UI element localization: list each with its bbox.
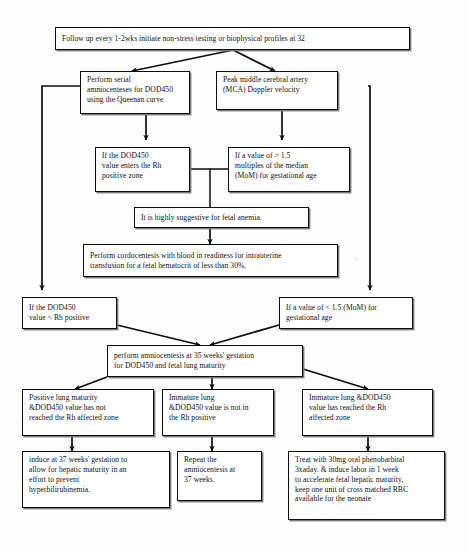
- node-mom-high-line-1: multiples of the median: [235, 161, 344, 171]
- node-dod450-less-line-1: value < Rh positive: [29, 313, 111, 323]
- node-perform-serial-amniocenteses-line-1: amniocenteses for DOD450: [87, 85, 184, 95]
- node-positive-lung-maturity: Positive lung maturity &DOD450 value has…: [22, 389, 154, 436]
- node-peak-mca-doppler-line-0: Peak middle cerebral artery: [223, 75, 332, 85]
- node-amnio35-line-1: for DOD450 and fetal lung maturity: [114, 361, 297, 371]
- node-positive-lung-line-1: &DOD450 value has not: [29, 403, 148, 413]
- node-repeat-amnio-line-0: Repeat the: [184, 455, 256, 465]
- node-value-less-1-5-mom: If a value of < 1.5 (MoM) for gestationa…: [279, 297, 413, 329]
- edge-followup-to-serial-amnio: [132, 50, 233, 71]
- node-positive-lung-line-0: Positive lung maturity: [29, 393, 148, 403]
- node-phenobarbital-line-3: keep one unit of cross matched RBC: [295, 485, 439, 495]
- node-immature-reached-line-1: value has reached the Rh: [309, 403, 427, 413]
- node-value-greater-1-5-mom: If a value of > 1.5 multiples of the med…: [228, 147, 350, 192]
- node-phenobarbital-line-2: to accelerate fetal hepatic maturity,: [295, 475, 439, 485]
- node-repeat-amniocentesis: Repeat the amniocentesis at 37 weeks.: [177, 451, 262, 501]
- scan-artifact-mark: ·.: [354, 255, 358, 261]
- node-repeat-amnio-line-1: amniocentesis at: [184, 465, 256, 475]
- edge-mom-low-to-amnio35: [210, 325, 279, 345]
- node-amnio35-line-0: perform amniocentesis at 35 weeks' gesta…: [114, 351, 297, 361]
- node-follow-up: Follow up every 1-2wks initiate non-stre…: [55, 27, 410, 50]
- node-dod450-less-line-0: If the DOD450: [29, 303, 111, 313]
- node-induce-at-37-weeks: induce at 37 weeks' gestation to allow f…: [22, 451, 170, 508]
- node-cordocentesis-line-0: Perform cordocentesis with blood in read…: [90, 251, 332, 261]
- node-phenobarbital-line-1: 3xaday. & induce labor in 1 week: [295, 465, 439, 475]
- node-induce37-line-0: induce at 37 weeks' gestation to: [29, 455, 164, 465]
- node-treat-with-phenobarbital: Treat with 30mg oral phenobarbital 3xada…: [288, 451, 445, 520]
- node-follow-up-line-0: Follow up every 1-2wks initiate non-stre…: [62, 34, 305, 44]
- node-perform-serial-amniocenteses-line-0: Perform serial: [87, 75, 184, 85]
- node-immature-not-rh-line-2: the Rh positive: [169, 413, 268, 423]
- node-dod450-enters-line-2: positive zone: [102, 171, 184, 181]
- node-phenobarbital-line-4: available for the neonate: [295, 494, 439, 504]
- node-mom-low-line-1: gestational age: [286, 313, 407, 323]
- node-peak-mca-doppler: Peak middle cerebral artery (MCA) Dopple…: [216, 71, 338, 110]
- edge-mca-to-mom-low: [368, 86, 370, 290]
- node-highly-suggestive-fetal-anemia: It is highly suggestive for fetal anemia…: [134, 207, 309, 228]
- node-mom-low-line-0: If a value of < 1.5 (MoM) for: [286, 303, 407, 313]
- flowchart-canvas: Follow up every 1-2wks initiate non-stre…: [0, 0, 467, 553]
- node-phenobarbital-line-0: Treat with 30mg oral phenobarbital: [295, 455, 439, 465]
- node-anemia-line-0: It is highly suggestive for fetal anemia…: [141, 213, 262, 223]
- node-peak-mca-doppler-line-1: (MCA) Doppler velocity: [223, 85, 332, 95]
- node-perform-amniocentesis-35-weeks: perform amniocentesis at 35 weeks' gesta…: [107, 345, 303, 377]
- node-perform-serial-amniocenteses-line-2: using the Queenan curve: [87, 95, 184, 105]
- node-mom-high-line-2: (MoM) for gestational age: [235, 171, 344, 181]
- node-immature-not-rh-line-0: Immature lung: [169, 393, 268, 403]
- edge-followup-to-mca: [233, 50, 275, 71]
- node-immature-reached-line-2: affected zone: [309, 413, 427, 423]
- node-dod450-enters-line-0: If the DOD450: [102, 151, 184, 161]
- edge-serial-amnio-to-dod450-less: [42, 86, 80, 290]
- node-repeat-amnio-line-2: 37 weeks.: [184, 475, 256, 485]
- node-mom-high-line-0: If a value of > 1.5: [235, 151, 344, 161]
- node-positive-lung-line-2: reached the Rh affected zone: [29, 413, 148, 423]
- node-immature-lung-reached-rh-zone: Immature lung &DOD450 value has reached …: [302, 389, 433, 436]
- node-immature-lung-not-rh-positive: Immature lung &DOD450 value is not in th…: [162, 389, 274, 436]
- node-dod450-less-than-rh-positive: If the DOD450 value < Rh positive: [22, 297, 117, 329]
- node-cordocentesis-line-1: transfusion for a fetal hematocrit of le…: [90, 261, 332, 271]
- node-induce37-line-3: hyperbilirubinemia.: [29, 485, 164, 495]
- edge-dod450-less-to-amnio35: [117, 325, 200, 345]
- node-perform-serial-amniocenteses: Perform serial amniocenteses for DOD450 …: [80, 71, 190, 114]
- edge-amnio35-to-immature-reached: [303, 369, 368, 389]
- node-induce37-line-1: allow for hepatic maturity in an: [29, 465, 164, 475]
- node-perform-cordocentesis: Perform cordocentesis with blood in read…: [83, 244, 338, 277]
- node-immature-not-rh-line-1: &DOD450 value is not in: [169, 403, 268, 413]
- node-immature-reached-line-0: Immature lung &DOD450: [309, 393, 427, 403]
- node-induce37-line-2: effort to prevent: [29, 475, 164, 485]
- node-dod450-enters-rh-positive-zone: If the DOD450 value enters the Rh positi…: [95, 147, 190, 192]
- edge-amnio35-to-positive-lung: [75, 377, 107, 389]
- node-dod450-enters-line-1: value enters the Rh: [102, 161, 184, 171]
